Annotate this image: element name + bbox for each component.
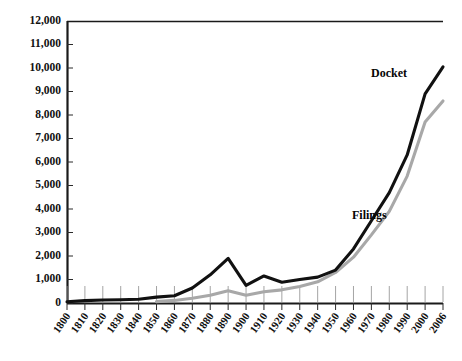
y-tick-label: 6,000 [35,155,61,167]
x-tick-label: 1940 [301,310,324,335]
y-tick-label: 9,000 [35,84,61,96]
series-line-filings [157,101,443,302]
x-axis-labels: 1800181018201830184018501860187018801890… [50,310,449,335]
x-tick-label: 1880 [193,310,216,335]
y-tick-label: 0 [55,296,61,308]
x-tick-label: 1800 [50,310,73,335]
x-tick-label: 1980 [372,310,395,335]
y-tick-label: 3,000 [35,225,61,237]
series-label-filings: Filings [352,208,387,222]
y-tick-label: 2,000 [35,249,61,261]
x-tick-label: 1820 [86,310,109,335]
x-tick-label: 1930 [283,310,306,335]
y-tick-label: 10,000 [29,61,61,73]
series-label-docket: Docket [371,66,407,80]
x-tick-label: 1920 [265,310,288,335]
y-tick-label: 4,000 [35,202,61,214]
x-tick-label: 1910 [247,310,270,335]
y-tick-label: 11,000 [30,37,61,49]
x-tick-label: 2000 [408,310,431,335]
y-tick-label: 12,000 [29,14,61,26]
x-tick-label: 1850 [140,310,163,335]
x-tick-label: 1830 [104,310,127,335]
x-tick-label: 1810 [68,310,91,335]
x-tick-label: 1950 [319,310,342,335]
x-tick-label: 1890 [211,310,234,335]
x-tick-label: 1900 [229,310,252,335]
y-tick-label: 8,000 [35,108,61,120]
x-tick-label: 1860 [158,310,181,335]
x-tick-label: 1840 [122,310,145,335]
chart-figure: 01,0002,0003,0004,0005,0006,0007,0008,00… [0,0,462,361]
y-tick-label: 7,000 [35,131,61,143]
y-axis-labels: 01,0002,0003,0004,0005,0006,0007,0008,00… [29,14,61,308]
x-tick-label: 1870 [176,310,199,335]
series-line-docket [67,67,443,302]
x-tick-label: 2006 [426,310,449,335]
y-tick-label: 5,000 [35,178,61,190]
line-chart: 01,0002,0003,0004,0005,0006,0007,0008,00… [0,0,462,361]
x-tick-label: 1970 [355,310,378,335]
y-tick-label: 1,000 [35,272,61,284]
x-tick-label: 1960 [337,310,360,335]
x-tick-label: 1990 [390,310,413,335]
